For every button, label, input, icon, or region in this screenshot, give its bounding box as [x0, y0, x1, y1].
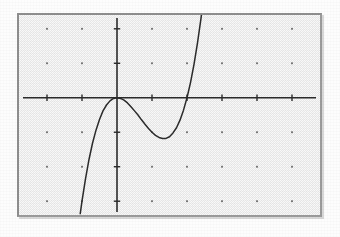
calculator-screen	[17, 13, 322, 217]
figure-page	[0, 0, 340, 237]
graph-plot	[19, 15, 320, 215]
screen-shadow-bottom	[19, 217, 324, 219]
axes-layer	[23, 18, 316, 212]
cubic-curve	[80, 15, 213, 214]
screen-shadow-right	[322, 15, 324, 219]
grid-dot-layer	[46, 28, 293, 202]
